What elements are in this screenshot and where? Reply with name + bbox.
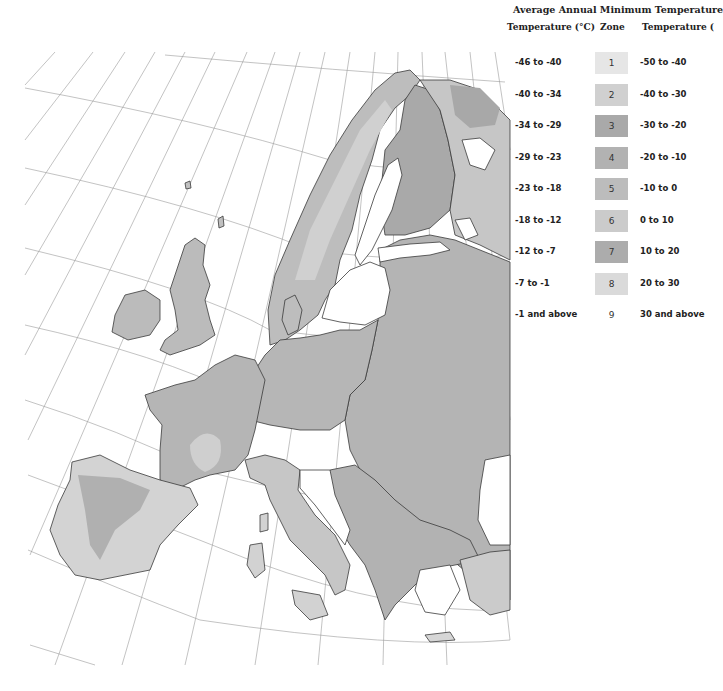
- zone-swatch: 7: [595, 241, 628, 263]
- fahrenheit-range: -40 to -30: [640, 89, 687, 99]
- legend-row-zone-9: -1 and above930 and above: [505, 304, 695, 326]
- legend-row-zone-7: -12 to -7710 to 20: [505, 241, 695, 263]
- fahrenheit-range: 0 to 10: [640, 215, 674, 225]
- zone-swatch: 5: [595, 178, 628, 200]
- celsius-range: -46 to -40: [515, 57, 562, 67]
- zone-swatch: 3: [595, 115, 628, 137]
- celsius-range: -40 to -34: [515, 89, 562, 99]
- zone-swatch: 6: [595, 210, 628, 232]
- legend-title: Average Annual Minimum Temperature: [513, 4, 723, 15]
- ireland: [112, 290, 160, 340]
- celsius-range: -23 to -18: [515, 183, 562, 193]
- landmasses: [50, 70, 510, 642]
- header-fahrenheit: Temperature (: [642, 22, 714, 32]
- faroe-islands: [185, 181, 191, 189]
- corsica: [260, 513, 268, 532]
- legend-row-zone-6: -18 to -1260 to 10: [505, 210, 695, 232]
- header-zone: Zone: [600, 22, 625, 32]
- zone-swatch: 4: [595, 147, 628, 169]
- fahrenheit-range: 30 and above: [640, 309, 705, 319]
- fahrenheit-range: 20 to 30: [640, 278, 679, 288]
- fahrenheit-range: -10 to 0: [640, 183, 677, 193]
- celsius-range: -7 to -1: [515, 278, 550, 288]
- sardinia: [247, 543, 265, 578]
- legend-row-zone-5: -23 to -185-10 to 0: [505, 178, 695, 200]
- celsius-range: -12 to -7: [515, 246, 556, 256]
- sicily: [292, 590, 328, 620]
- crete: [425, 632, 455, 642]
- header-celsius: Temperature (°C): [507, 22, 595, 32]
- fahrenheit-range: -20 to -10: [640, 152, 687, 162]
- celsius-range: -1 and above: [515, 309, 577, 319]
- fahrenheit-range: 10 to 20: [640, 246, 679, 256]
- celsius-range: -29 to -23: [515, 152, 562, 162]
- legend-row-zone-1: -46 to -401-50 to -40: [505, 52, 695, 74]
- zone-swatch: 9: [595, 304, 628, 326]
- legend-row-zone-4: -29 to -234-20 to -10: [505, 147, 695, 169]
- fahrenheit-range: -30 to -20: [640, 120, 687, 130]
- zone-swatch: 8: [595, 273, 628, 295]
- celsius-range: -18 to -12: [515, 215, 562, 225]
- zone-swatch: 2: [595, 84, 628, 106]
- aegean-sea: [415, 565, 460, 615]
- fahrenheit-range: -50 to -40: [640, 57, 687, 67]
- legend-row-zone-2: -40 to -342-40 to -30: [505, 84, 695, 106]
- legend-row-zone-8: -7 to -1820 to 30: [505, 273, 695, 295]
- zone-swatch: 1: [595, 52, 628, 74]
- legend-row-zone-3: -34 to -293-30 to -20: [505, 115, 695, 137]
- anatolia: [460, 550, 510, 615]
- celsius-range: -34 to -29: [515, 120, 562, 130]
- great-britain: [160, 238, 215, 355]
